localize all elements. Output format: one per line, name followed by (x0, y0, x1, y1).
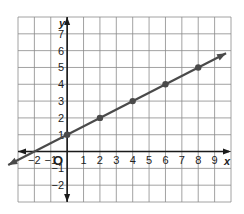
line-arrow-right-icon (216, 53, 226, 60)
y-axis-down-arrow-icon (64, 194, 70, 202)
y-tick-label: 6 (58, 45, 64, 57)
x-tick-label: 5 (146, 154, 152, 166)
x-tick-label: 9 (212, 154, 218, 166)
data-point (129, 98, 135, 104)
x-tick-label: 2 (97, 154, 103, 166)
x-axis-label: x (223, 155, 231, 167)
y-tick-label: −2 (52, 179, 65, 191)
y-tick-label: 4 (58, 78, 64, 90)
data-point (97, 115, 103, 121)
axes (18, 17, 231, 202)
data-point (195, 64, 201, 70)
tick-labels: −2−1123456789−2−11234567Oxy (28, 17, 231, 191)
function-line (8, 53, 226, 165)
y-axis-label: y (58, 17, 66, 29)
y-tick-label: 7 (58, 28, 64, 40)
data-point (64, 132, 70, 138)
y-tick-label: 5 (58, 61, 64, 73)
coordinate-plane: −2−1123456789−2−11234567Oxy (0, 0, 244, 214)
data-point (162, 81, 168, 87)
x-axis-left-arrow-icon (18, 149, 26, 155)
x-tick-label: 3 (113, 154, 119, 166)
y-tick-label: 2 (58, 112, 64, 124)
y-tick-label: 3 (58, 95, 64, 107)
grid (18, 17, 231, 202)
x-tick-label: 6 (162, 154, 168, 166)
x-tick-label: 4 (130, 154, 136, 166)
origin-label: O (53, 153, 63, 168)
x-tick-label: −2 (28, 154, 41, 166)
data-line (8, 53, 226, 165)
line-arrow-left-icon (8, 158, 18, 165)
x-tick-label: 7 (179, 154, 185, 166)
x-tick-label: 1 (80, 154, 86, 166)
x-tick-label: 8 (195, 154, 201, 166)
